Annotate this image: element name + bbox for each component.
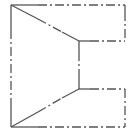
line-drawing <box>0 0 136 135</box>
lower-diagonal-solid <box>11 112 38 127</box>
upper-diagonal-end <box>62 32 79 41</box>
lower-diagonal <box>38 98 62 112</box>
lower-diagonal-end <box>62 89 79 98</box>
upper-diagonal <box>38 19 62 32</box>
upper-diagonal-solid <box>11 5 38 19</box>
